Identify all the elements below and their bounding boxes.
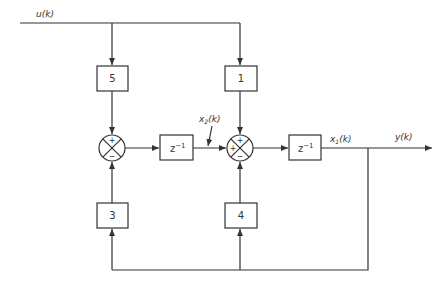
svg-text:1: 1	[238, 73, 244, 84]
gain-block-4: 4	[225, 203, 257, 228]
state1-label: x1(k)	[329, 134, 351, 145]
input-label: u(k)	[36, 9, 54, 19]
gain-block-1: 1	[225, 66, 257, 91]
state2-label: x2(k)	[198, 114, 220, 125]
block-diagram: u(k) 5 1 + − z−1 x2(k) + + −	[0, 0, 447, 285]
svg-text:5: 5	[109, 73, 115, 84]
summing-junction-right: + + −	[227, 135, 253, 161]
delay-block-1: z−1	[160, 135, 193, 160]
output-label: y(k)	[394, 132, 413, 142]
svg-text:3: 3	[109, 210, 115, 221]
svg-text:+: +	[109, 136, 116, 145]
svg-text:−: −	[109, 152, 116, 161]
gain-block-5: 5	[97, 66, 128, 91]
svg-text:4: 4	[238, 210, 244, 221]
gain-block-3: 3	[97, 203, 128, 228]
svg-text:+: +	[237, 136, 244, 145]
state2-pointer-arrow	[208, 126, 212, 146]
delay-block-2: z−1	[289, 135, 321, 160]
svg-text:−: −	[237, 152, 244, 161]
summing-junction-left: + −	[99, 135, 125, 161]
svg-text:+: +	[230, 144, 237, 153]
